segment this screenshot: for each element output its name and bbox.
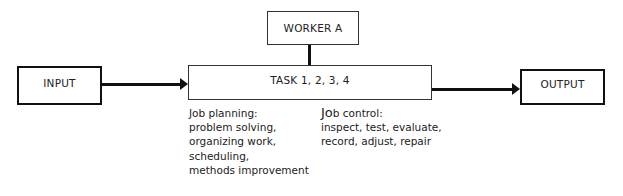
task-to-output-arrowhead-icon (512, 83, 520, 95)
job-control-heading-prefix: Jo (321, 105, 333, 120)
job-planning-heading: Job planning: (189, 106, 309, 120)
input-box: INPUT (17, 66, 102, 105)
job-control-notes: Job control: inspect, test, evaluate, re… (321, 106, 442, 149)
job-planning-item: organizing work, (189, 134, 309, 148)
input-to-task-arrowhead-icon (180, 78, 188, 90)
job-control-heading: Job control: (321, 106, 442, 120)
job-control-heading-rest: b control: (333, 107, 383, 119)
task-label: TASK 1, 2, 3, 4 (270, 74, 349, 86)
job-control-item: record, adjust, repair (321, 134, 442, 148)
job-planning-item: scheduling, (189, 149, 309, 163)
output-box: OUTPUT (520, 69, 605, 105)
output-label: OUTPUT (541, 78, 585, 90)
job-planning-item: problem solving, (189, 120, 309, 134)
input-to-task-arrow-line (102, 83, 181, 86)
task-box: TASK 1, 2, 3, 4 (188, 65, 432, 100)
worker-a-box: WORKER A (267, 11, 359, 45)
job-control-item: inspect, test, evaluate, (321, 120, 442, 134)
job-planning-item: methods improvement (189, 163, 309, 177)
job-planning-notes: Job planning: problem solving, organizin… (189, 106, 309, 177)
input-label: INPUT (43, 77, 75, 89)
worker-label: WORKER A (284, 22, 343, 34)
task-to-output-arrow-line (432, 88, 513, 91)
worker-task-connector (308, 45, 311, 65)
